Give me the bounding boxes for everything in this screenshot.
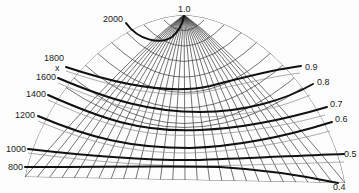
- meridian-line: [173, 15, 184, 180]
- contour-label: 1200: [15, 110, 35, 120]
- meridian-line: [184, 15, 197, 180]
- meridian-line: [136, 15, 184, 179]
- contour-label: 0.5: [344, 149, 357, 159]
- contour-label: 1400: [26, 89, 46, 99]
- contour-label: 0.7: [330, 99, 343, 109]
- contour-label: 800: [8, 162, 23, 172]
- contour-label: 1600: [36, 72, 56, 82]
- meridian-line: [184, 15, 259, 181]
- polar-net-figure: 2000180016001400120010008000.90.80.70.60…: [0, 0, 359, 193]
- contour-800-to-0.4: [25, 167, 338, 183]
- pole-label: 1.0: [178, 4, 191, 14]
- contour-label: 1000: [6, 144, 26, 154]
- marker-x: x: [55, 63, 60, 73]
- contour-label: 0.4: [333, 182, 346, 192]
- contour-label: 1800: [44, 53, 64, 63]
- contour-label: 0.8: [317, 77, 330, 87]
- contour-label: 0.9: [305, 62, 318, 72]
- contour-label: 2000: [103, 14, 123, 24]
- meridian-line: [184, 15, 185, 180]
- contour-1800-to-0.9: [66, 66, 301, 89]
- graticule-grid: [25, 15, 345, 183]
- contour-label: 0.6: [335, 114, 348, 124]
